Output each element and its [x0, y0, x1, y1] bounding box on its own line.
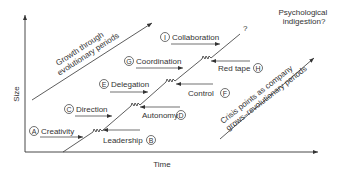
phase-i-collaboration: I Collaboration: [161, 33, 221, 45]
revolution-label-line1: Crisis points as company: [219, 64, 295, 126]
phase-h-red-tape: Red tape H: [211, 61, 263, 73]
phase-e-delegation: E Delegation: [100, 80, 150, 93]
revolution-label-line2: grows–revolutionary periods: [224, 64, 308, 133]
svg-text:G: G: [126, 58, 131, 65]
svg-text:Control: Control: [188, 89, 214, 98]
question-mark: ?: [243, 24, 248, 33]
svg-text:Red tape: Red tape: [218, 64, 251, 73]
svg-text:Leadership: Leadership: [103, 136, 143, 145]
phase-a-creativity: A Creativity: [30, 127, 84, 138]
x-axis-label: Time: [153, 160, 171, 169]
svg-text:Delegation: Delegation: [111, 80, 149, 89]
phase-g-coordination: G Coordination: [125, 57, 184, 69]
phase-c-direction: C Direction: [65, 105, 113, 117]
svg-text:C: C: [66, 106, 71, 113]
svg-text:Autonomy: Autonomy: [142, 111, 178, 120]
svg-text:F: F: [223, 90, 227, 97]
svg-text:D: D: [178, 112, 183, 119]
phase-d-autonomy: Autonomy D: [140, 107, 186, 120]
future-annotation: Psychological indigestion?: [278, 8, 329, 26]
svg-text:A: A: [32, 128, 37, 135]
y-axis-label: Size: [12, 86, 21, 102]
svg-text:Coordination: Coordination: [136, 57, 181, 66]
phase-f-control: Control F: [176, 84, 230, 98]
svg-text:H: H: [255, 65, 260, 72]
phase-b-leadership: Leadership B: [103, 130, 156, 145]
svg-text:Creativity: Creativity: [41, 127, 74, 136]
svg-text:E: E: [102, 81, 107, 88]
svg-text:B: B: [149, 137, 154, 144]
svg-text:I: I: [164, 34, 166, 41]
svg-text:Collaboration: Collaboration: [172, 33, 219, 42]
svg-text:Growth through evolution: Growth through evolutionary periods: [51, 23, 121, 77]
greiner-growth-diagram: Size Time Growth through evolutionary pe…: [0, 0, 340, 174]
svg-text:Direction: Direction: [76, 105, 108, 114]
